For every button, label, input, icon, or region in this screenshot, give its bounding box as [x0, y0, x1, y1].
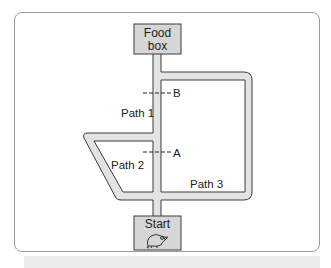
block-a-marker: A — [143, 147, 181, 159]
path-2-label: Path 2 — [111, 159, 144, 171]
food-box-label-line1: Food — [144, 26, 171, 40]
path-1-label: Path 1 — [121, 107, 154, 119]
food-box-label-line2: box — [148, 39, 167, 53]
start-box: Start — [134, 216, 181, 250]
path-1-road — [153, 54, 161, 216]
maze-diagram: Food box Start B A Path 1 Path 2 Path 3 — [0, 0, 331, 268]
food-box: Food box — [134, 24, 181, 54]
caption-strip — [24, 256, 320, 268]
block-a-label: A — [173, 147, 181, 159]
start-box-label: Start — [145, 217, 171, 231]
block-b-marker: B — [143, 87, 181, 99]
path-3-label: Path 3 — [190, 178, 223, 190]
block-b-label: B — [173, 87, 181, 99]
